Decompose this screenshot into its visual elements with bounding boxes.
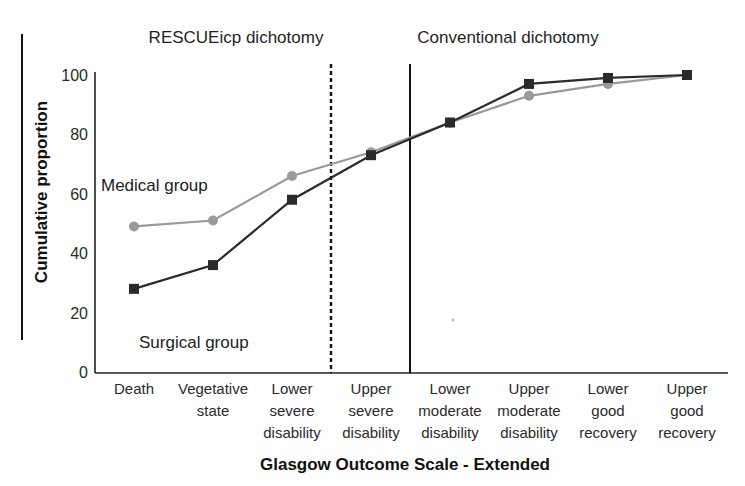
- surgical-point-square-marker: [287, 195, 297, 205]
- rescueicp-dichotomy-label: RESCUEicp dichotomy: [149, 28, 324, 47]
- conventional-dichotomy-label: Conventional dichotomy: [417, 28, 599, 47]
- x-category-label: Lowergoodrecovery: [579, 380, 637, 441]
- surgical-point-square-marker: [129, 284, 139, 294]
- x-category-label: Death: [114, 380, 154, 397]
- surgical-point-square-marker: [208, 260, 218, 270]
- surgical-point-square-marker: [524, 79, 534, 89]
- medical-point-circle-marker: [129, 221, 139, 231]
- x-axis-title: Glasgow Outcome Scale - Extended: [260, 455, 550, 474]
- x-category-label: Upperseveredisability: [342, 380, 400, 441]
- surgical-group-label: Surgical group: [139, 333, 249, 352]
- surgical-point-square-marker: [366, 150, 376, 160]
- scan-speck: [452, 319, 455, 322]
- y-tick-label: 80: [70, 126, 88, 143]
- y-tick-label: 100: [61, 67, 88, 84]
- surgical-point-square-marker: [682, 70, 692, 80]
- y-tick-label: 0: [79, 364, 88, 381]
- x-category-labels: DeathVegetativestateLowerseveredisabilit…: [114, 380, 716, 441]
- y-tick-label: 20: [70, 305, 88, 322]
- cumulative-proportion-chart: Cumulative proportion RESCUEicp dichotom…: [0, 0, 745, 486]
- medical-point-circle-marker: [524, 91, 534, 101]
- x-category-label: Uppergoodrecovery: [658, 380, 716, 441]
- x-category-label: Lowerseveredisability: [263, 380, 321, 441]
- medical-point-circle-marker: [208, 216, 218, 226]
- x-category-label: Lowermoderatedisability: [418, 380, 481, 441]
- surgical-point-square-marker: [603, 73, 613, 83]
- x-category-label: Vegetativestate: [178, 380, 248, 419]
- x-category-label: Uppermoderatedisability: [497, 380, 560, 441]
- medical-point-circle-marker: [287, 171, 297, 181]
- y-tick-labels: 020406080100: [61, 67, 88, 381]
- y-tick-label: 60: [70, 186, 88, 203]
- y-axis-title: Cumulative proportion: [32, 101, 51, 283]
- medical-group-label: Medical group: [101, 176, 208, 195]
- surgical-point-square-marker: [445, 118, 455, 128]
- y-tick-label: 40: [70, 245, 88, 262]
